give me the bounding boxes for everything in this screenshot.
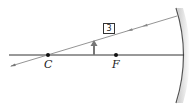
ray-arrowhead-icon [127, 28, 133, 31]
ray-diagram: C F 3 [0, 0, 196, 107]
object-arrowhead-icon [91, 40, 98, 46]
ray-number-label: 3 [103, 23, 115, 34]
point-f-label: F [112, 59, 120, 70]
point-f-dot [114, 53, 118, 57]
point-c-dot [46, 53, 50, 57]
ray-arrowhead-icon [142, 24, 148, 27]
diagram-canvas [0, 0, 196, 107]
ray-arrowhead-icon [10, 63, 16, 66]
point-c-label: C [44, 59, 52, 70]
